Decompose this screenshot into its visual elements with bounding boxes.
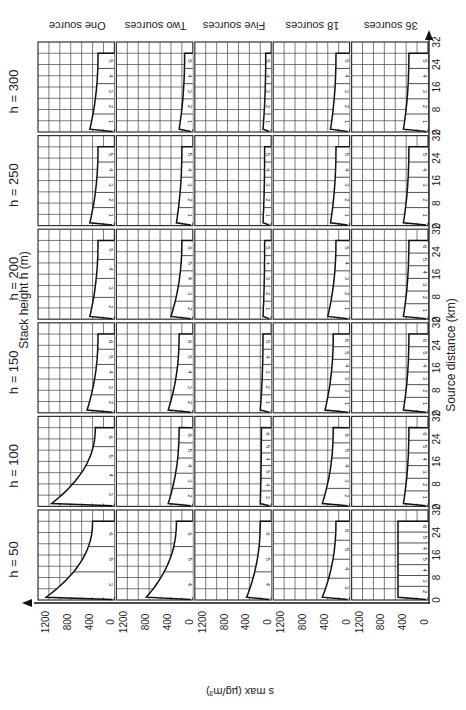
y-tick-label: 800 [375, 613, 386, 630]
panel-250-1: 12345 [116, 136, 192, 226]
x-tick-label: 24 [431, 152, 442, 164]
panel-200-1: 23456 [116, 229, 192, 319]
panel-250-4: 12345 [352, 136, 428, 226]
y-tick-label: 400 [84, 613, 95, 630]
y-tick-label: 1200 [118, 610, 129, 633]
x-tick-label: 16 [431, 362, 442, 374]
x-tick-label: 32 [431, 317, 442, 329]
x-tick-label: 8 [431, 387, 442, 393]
panel-200-0: 2345 [38, 229, 114, 319]
y-axis-title: s max (µg/m³) [206, 686, 274, 698]
x-tick-label: 32 [431, 130, 442, 142]
panel-grid: 1234512345234523456345635612345123452345… [38, 42, 428, 600]
y-tick-label: 0 [184, 619, 195, 625]
panel-100-3: 23456 [273, 416, 349, 506]
panel-300-0: 12345 [38, 42, 114, 132]
x-tick-label: 32 [431, 223, 442, 235]
y-tick-label: 800 [62, 613, 73, 630]
panel-100-4: 123456 [352, 416, 428, 506]
x-tick-label: 8 [431, 574, 442, 580]
x-tick-label: 16 [431, 81, 442, 93]
chart-figure: 1234512345234523456345635612345123452345… [0, 0, 466, 710]
panel-50-4: 2345456 [352, 510, 428, 600]
panel-300-3: 12345 [273, 42, 349, 132]
panel-50-0: 356 [38, 510, 114, 600]
panel-50-3: 3456 [273, 510, 349, 600]
source-group-label: One source [49, 20, 106, 32]
panel-50-2: 456 [195, 510, 271, 600]
x-tick-label: 0 [431, 597, 442, 603]
y-tick-label: 400 [162, 613, 173, 630]
x-tick-label: 24 [431, 59, 442, 71]
x-tick-label: 8 [431, 293, 442, 299]
x-tick-label: 24 [431, 433, 442, 445]
y-tick-label: 0 [419, 619, 430, 625]
stack-height-label: h = 50 [6, 541, 21, 578]
y-tick-label: 1200 [197, 610, 208, 633]
y-tick-label: 800 [219, 613, 230, 630]
panel-50-1: 456 [116, 510, 192, 600]
panel-150-1: 23456 [116, 323, 192, 413]
row-axis-title: Stack height h (m) [17, 251, 31, 348]
panel-150-0: 23456 [38, 323, 114, 413]
y-tick-label: 400 [319, 613, 330, 630]
y-tick-label: 400 [397, 613, 408, 630]
x-tick-label: 16 [431, 455, 442, 467]
arrow-icon [425, 30, 433, 40]
stack-height-label: h = 250 [6, 163, 21, 207]
x-tick-label: 32 [431, 410, 442, 422]
panel-250-2: 12345 [195, 136, 271, 226]
x-tick-label: 24 [431, 339, 442, 351]
source-group-label: 36 sources [363, 20, 417, 32]
y-tick-label: 1200 [275, 610, 286, 633]
x-tick-label: 16 [431, 549, 442, 561]
x-tick-label: 32 [431, 504, 442, 516]
panel-250-0: 12345 [38, 136, 114, 226]
panel-300-1: 12345 [116, 42, 192, 132]
panel-100-0: 3456 [38, 416, 114, 506]
panel-250-3: 12345 [273, 136, 349, 226]
stack-height-label: h = 150 [6, 350, 21, 394]
y-tick-label: 1200 [40, 610, 51, 633]
x-tick-label: 24 [431, 246, 442, 258]
x-tick-label: 24 [431, 527, 442, 539]
panel-150-2: 12345 [195, 323, 271, 413]
panel-200-4: 123456 [352, 229, 428, 319]
x-axis-title: Source distance (km) [444, 298, 458, 411]
panel-200-3: 12345 [273, 229, 349, 319]
panel-150-3: 123456 [273, 323, 349, 413]
y-tick-label: 800 [140, 613, 151, 630]
y-tick-label: 800 [297, 613, 308, 630]
panel-100-1: 23456 [116, 416, 192, 506]
y-tick-label: 0 [262, 619, 273, 625]
arrow-icon [22, 599, 32, 607]
x-tick-label: 32 [431, 36, 442, 48]
panel-150-4: 123456 [352, 323, 428, 413]
source-group-label: Two sources [124, 20, 186, 32]
y-tick-label: 400 [240, 613, 251, 630]
x-tick-label: 8 [431, 200, 442, 206]
x-tick-label: 8 [431, 106, 442, 112]
source-group-label: Five sources [202, 20, 265, 32]
stack-height-label: h = 300 [6, 70, 21, 114]
source-group-label: 18 sources [285, 20, 339, 32]
panel-300-4: 12345 [352, 42, 428, 132]
panel-200-2: 12345 [195, 229, 271, 319]
y-tick-label: 0 [105, 619, 116, 625]
x-tick-label: 16 [431, 268, 442, 280]
x-tick-label: 16 [431, 175, 442, 187]
panel-300-2: 12345 [195, 42, 271, 132]
panel-100-2: 345456 [195, 416, 271, 506]
x-tick-label: 8 [431, 481, 442, 487]
y-tick-label: 1200 [354, 610, 365, 633]
stack-height-label: h = 100 [6, 444, 21, 488]
y-tick-label: 0 [341, 619, 352, 625]
